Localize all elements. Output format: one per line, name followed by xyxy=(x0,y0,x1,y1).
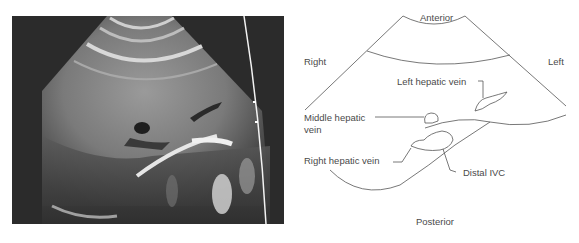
label-left-hepatic-vein: Left hepatic vein xyxy=(397,76,466,87)
label-anterior: Anterior xyxy=(420,12,453,23)
label-middle-hepatic-vein-line2: vein xyxy=(304,124,321,135)
label-left: Left xyxy=(548,56,564,67)
ultrasound-rendering xyxy=(12,16,284,224)
right-hepatic-vein-ivc-shape xyxy=(411,131,453,151)
inner-arc xyxy=(367,51,510,64)
leader-left-hepatic-vein xyxy=(478,81,483,98)
label-middle-hepatic-vein-line1: Middle hepatic xyxy=(304,112,365,123)
label-right: Right xyxy=(304,56,326,67)
label-right-hepatic-vein: Right hepatic vein xyxy=(304,155,380,166)
label-distal-ivc: Distal IVC xyxy=(463,167,505,178)
label-posterior: Posterior xyxy=(416,216,454,227)
leader-right-hepatic-vein xyxy=(393,148,411,162)
ultrasound-image xyxy=(12,16,284,224)
posterior-liver-boundary xyxy=(425,115,566,128)
middle-hepatic-vein-shape xyxy=(425,113,439,123)
anatomy-diagram: Anterior Right Left Left hepatic vein Mi… xyxy=(290,0,579,243)
left-hepatic-vein-shape xyxy=(475,92,507,111)
